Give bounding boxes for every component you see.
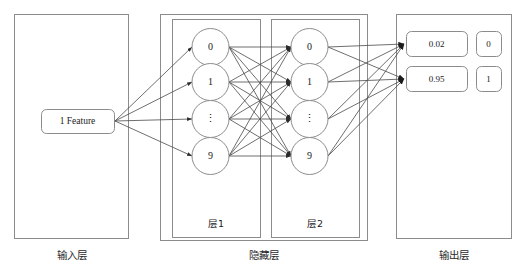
layer1-node-label-0: 0	[192, 42, 229, 52]
layer1-node-label-3: 9	[192, 151, 229, 161]
feature-box-label: 1 Feature	[41, 117, 114, 127]
output-class-label-0: 0	[476, 40, 501, 49]
layer2-node-label-3: 9	[291, 151, 328, 161]
output-value-0: 0.02	[406, 40, 467, 49]
layer2-node-label-0: 0	[291, 42, 328, 52]
hidden-sublayer-1-label: 层1	[172, 219, 260, 229]
hidden-layer-caption: 隐藏层	[160, 250, 368, 261]
edges-input-to-layer1	[115, 47, 192, 156]
layer2-node-label-1: 1	[291, 77, 328, 87]
input-layer-caption: 输入层	[14, 250, 129, 261]
output-class-label-1: 1	[476, 75, 501, 84]
hidden-sublayer-2-label: 层2	[271, 219, 359, 229]
neural-network-diagram: 1 Feature 0 1 ⋮ 9 0 1 ⋮ 9 层1 层2 0.02 0.9…	[0, 0, 521, 280]
output-layer-caption: 输出层	[396, 250, 512, 261]
edges-layer2-to-output	[328, 44, 404, 156]
layer1-node-label-2: ⋮	[192, 113, 229, 124]
layer1-node-label-1: 1	[192, 77, 229, 87]
output-value-1: 0.95	[406, 75, 467, 84]
layer2-node-label-2: ⋮	[291, 113, 328, 124]
